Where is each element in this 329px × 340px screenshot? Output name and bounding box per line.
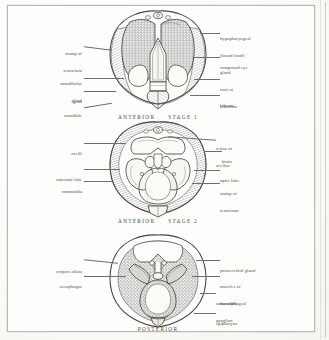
caption-orientation: POSTERIOR (138, 326, 179, 332)
label-ocelli: ocelli (38, 140, 82, 168)
scanned-page: stump of tentorium mandibular gland gena… (0, 0, 329, 340)
caption-stage-2: ANTERIORSTAGE 2 (8, 218, 308, 224)
leader-suboesophageal-ganglion (200, 293, 216, 294)
drawing-stage-1 (104, 8, 212, 112)
figure-stage-2: ocelli antennal lobe ommatidia retina of… (8, 118, 308, 230)
caption-posterior: POSTERIOR (8, 326, 308, 332)
page-edge-line (325, 2, 326, 337)
leader-brain (204, 151, 222, 152)
leader-muscles-of-mandible (192, 276, 220, 277)
caption-stage: STAGE 2 (168, 218, 198, 224)
leader-gena (84, 91, 116, 92)
leader-compound-eye (194, 57, 220, 58)
leader-mandibular-gland (84, 78, 124, 79)
leader-ocelli (84, 143, 126, 144)
drawing-stage-2 (104, 118, 212, 218)
leader-roof-of-cibarium (194, 79, 220, 80)
leader-ommatidia (84, 181, 112, 182)
caption-orientation: ANTERIOR (118, 218, 155, 224)
page-edge-line-secondary (320, 0, 321, 340)
figure-posterior: corpora allata oesophagus postcerebral g… (8, 232, 308, 338)
label-epipharynx: epipharynx (216, 310, 308, 338)
leader-stump-of-tentorium-2 (192, 183, 220, 184)
leader-oesophagus (84, 276, 126, 277)
illustration-plate: stump of tentorium mandibular gland gena… (8, 6, 308, 338)
leader-postcerebral-gland (196, 260, 220, 261)
leader-optic-lobe (194, 170, 220, 171)
leader-epipharynx (194, 313, 216, 314)
label-ommatidia: ommatidia (22, 178, 82, 206)
figure-stage-1: stump of tentorium mandibular gland gena… (8, 8, 308, 126)
leader-hypopharyngeal-gland (200, 33, 220, 34)
leader-labrum (190, 95, 220, 96)
label-oesophagus: oesophagus (18, 273, 82, 301)
leader-antennal-lobe (84, 169, 120, 170)
drawing-posterior (104, 232, 212, 328)
